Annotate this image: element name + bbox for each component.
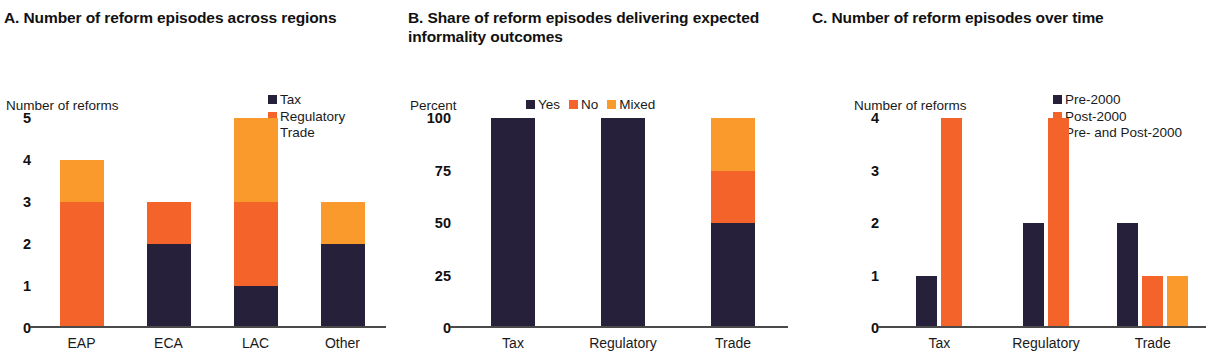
x-label-tax: Tax	[458, 328, 568, 351]
grouped-bar	[916, 118, 962, 328]
legend-item-tax: Tax	[268, 92, 345, 108]
panel-b-legend: Yes No Mixed	[526, 97, 664, 113]
panel-c-plot-area: 4 3 2 1 0 Tax	[886, 118, 1206, 328]
panel-a-axis-line	[30, 326, 386, 328]
y-tick-25: 25	[435, 268, 458, 284]
x-label-other: Other	[299, 328, 386, 351]
panel-c-axis-line	[878, 326, 1206, 328]
segment-trade	[60, 160, 104, 202]
panel-c-bars: Tax Regulatory Trade	[886, 118, 1206, 328]
x-label-lac: LAC	[212, 328, 299, 351]
legend-swatch-no	[569, 100, 578, 109]
segment-mixed	[711, 118, 755, 171]
bar-pre-2000	[1117, 223, 1138, 328]
y-tick-4: 4	[23, 152, 38, 168]
grouped-bar	[1023, 118, 1069, 328]
segment-no	[711, 171, 755, 224]
legend-label-mixed: Mixed	[619, 97, 655, 113]
legend-item-yes: Yes	[526, 97, 560, 113]
bar-group-other: Other	[299, 118, 386, 328]
segment-tax	[321, 244, 365, 328]
segment-yes	[601, 118, 645, 328]
stacked-bar	[234, 118, 278, 328]
stacked-bar	[711, 118, 755, 328]
y-tick-3: 3	[871, 163, 886, 179]
stacked-bar	[321, 118, 365, 328]
legend-swatch-mixed	[607, 100, 616, 109]
bar-group-eca: ECA	[125, 118, 212, 328]
stacked-bar	[491, 118, 535, 328]
segment-trade	[321, 202, 365, 244]
bar-pre-2000	[916, 276, 937, 329]
panel-b-bars: Tax Regulatory Trade	[458, 118, 788, 328]
x-label-regulatory: Regulatory	[993, 328, 1100, 351]
three-panel-chart-figure: A. Number of reform episodes across regi…	[0, 0, 1213, 357]
y-tick-1: 1	[871, 268, 886, 284]
segment-yes	[711, 223, 755, 328]
y-tick-3: 3	[23, 194, 38, 210]
x-label-trade: Trade	[678, 328, 788, 351]
segment-trade	[234, 118, 278, 202]
stacked-bar	[60, 118, 104, 328]
y-tick-0: 0	[23, 320, 38, 336]
y-tick-4: 4	[871, 110, 886, 126]
x-label-tax: Tax	[886, 328, 993, 351]
y-tick-75: 75	[435, 163, 458, 179]
legend-label-pre-2000: Pre-2000	[1065, 92, 1121, 108]
bar-group-tax: Tax	[458, 118, 568, 328]
panel-b: B. Share of reform episodes delivering e…	[404, 0, 808, 357]
segment-tax	[147, 244, 191, 328]
legend-item-pre-2000: Pre-2000	[1053, 92, 1182, 108]
segment-yes	[491, 118, 535, 328]
panel-a-plot-area: 5 4 3 2 1 0 EAP	[38, 118, 386, 328]
legend-swatch-yes	[526, 100, 535, 109]
x-label-eca: ECA	[125, 328, 212, 351]
y-tick-0: 0	[871, 320, 886, 336]
panel-c: C. Number of reform episodes over time N…	[808, 0, 1213, 357]
bar-group-lac: LAC	[212, 118, 299, 328]
bar-post-2000	[1142, 276, 1163, 329]
stacked-bar	[147, 118, 191, 328]
legend-label-tax: Tax	[280, 92, 301, 108]
segment-regulatory	[234, 202, 278, 286]
y-tick-1: 1	[23, 278, 38, 294]
legend-item-no: No	[569, 97, 598, 113]
bar-group-eap: EAP	[38, 118, 125, 328]
bar-post-2000	[1048, 118, 1069, 328]
y-tick-2: 2	[871, 215, 886, 231]
legend-swatch-pre-2000	[1053, 95, 1062, 104]
x-label-regulatory: Regulatory	[568, 328, 678, 351]
bar-pre-and-post-2000	[1167, 276, 1188, 329]
panel-a-bars: EAP ECA LAC	[38, 118, 386, 328]
legend-label-yes: Yes	[538, 97, 560, 113]
segment-regulatory	[147, 202, 191, 244]
segment-regulatory	[60, 202, 104, 328]
y-tick-0: 0	[443, 320, 458, 336]
panel-b-axis-line	[450, 326, 788, 328]
y-tick-5: 5	[23, 110, 38, 126]
panel-c-title: C. Number of reform episodes over time	[812, 8, 1212, 27]
bar-group-trade: Trade	[1099, 118, 1206, 328]
x-label-eap: EAP	[38, 328, 125, 351]
panel-b-plot-area: 100 75 50 25 0 Tax Regulatory	[458, 118, 788, 328]
legend-swatch-tax	[268, 95, 277, 104]
panel-a: A. Number of reform episodes across regi…	[0, 0, 404, 357]
legend-label-no: No	[581, 97, 598, 113]
bar-group-tax: Tax	[886, 118, 993, 328]
panel-b-title: B. Share of reform episodes delivering e…	[408, 8, 778, 46]
y-tick-100: 100	[427, 110, 458, 126]
y-tick-50: 50	[435, 215, 458, 231]
grouped-bar	[1117, 118, 1188, 328]
segment-tax	[234, 286, 278, 328]
legend-item-mixed: Mixed	[607, 97, 655, 113]
x-label-trade: Trade	[1099, 328, 1206, 351]
panel-a-title: A. Number of reform episodes across regi…	[4, 8, 374, 27]
y-tick-2: 2	[23, 236, 38, 252]
bar-group-regulatory: Regulatory	[568, 118, 678, 328]
bar-group-regulatory: Regulatory	[993, 118, 1100, 328]
bar-pre-2000	[1023, 223, 1044, 328]
bar-post-2000	[941, 118, 962, 328]
bar-group-trade: Trade	[678, 118, 788, 328]
stacked-bar	[601, 118, 645, 328]
